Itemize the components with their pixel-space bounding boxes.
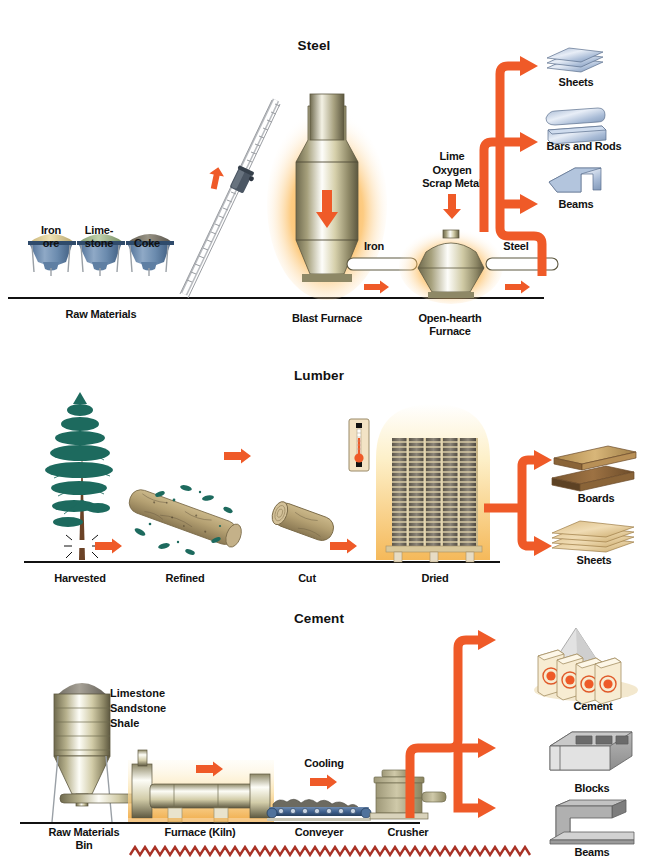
flow-label-iron: Iron xyxy=(352,240,396,253)
arrow-cooling xyxy=(310,774,338,790)
caption-blast-furnace: Blast Furnace xyxy=(252,312,402,325)
iron-ore-line1: Iron xyxy=(28,224,74,237)
cut-off-header-text xyxy=(60,0,400,7)
arrow-kiln-direction xyxy=(196,761,224,777)
zigzag-divider xyxy=(130,845,530,859)
product-label-sheets-steel: Sheets xyxy=(536,76,616,89)
arrow-harvested-to-refined xyxy=(95,538,123,554)
furnace-kiln xyxy=(128,748,274,824)
raw-material-label-coke: Coke xyxy=(124,237,170,250)
arrow-additives-down xyxy=(442,194,462,220)
product-label-sheets-lumber: Sheets xyxy=(554,554,634,567)
skip-car-steel xyxy=(229,166,255,198)
open-hearth-line1: Open-hearth xyxy=(388,312,512,325)
arrow-refined-to-cut xyxy=(224,448,252,464)
section-title-steel: Steel xyxy=(234,38,394,53)
thermometer-icon xyxy=(348,418,370,472)
product-icon-sheets-steel xyxy=(543,44,607,74)
product-label-blocks: Blocks xyxy=(550,782,634,795)
raw-material-label-limestone: Lime- stone xyxy=(74,224,124,249)
conveyer xyxy=(267,793,371,823)
caption-dried: Dried xyxy=(390,572,480,585)
bin-content-limestone: Limestone xyxy=(110,686,220,701)
caption-conveyer: Conveyer xyxy=(272,826,366,839)
product-label-beams-steel: Beams xyxy=(540,198,612,211)
product-label-bars-and-rods: Bars and Rods xyxy=(524,140,644,153)
caption-refined: Refined xyxy=(135,572,235,585)
product-label-boards: Boards xyxy=(556,492,636,505)
product-icon-blocks xyxy=(546,728,636,778)
product-icon-cement-bags xyxy=(524,624,640,706)
bin-content-sandstone: Sandstone xyxy=(110,701,220,716)
arrow-steel-out xyxy=(505,280,531,294)
caption-cut: Cut xyxy=(272,572,342,585)
open-hearth-line2: Furnace xyxy=(388,325,512,338)
product-icon-boards-lumber xyxy=(550,444,640,492)
product-icon-sheets-lumber xyxy=(548,518,640,554)
limestone-line1: Lime- xyxy=(74,224,124,237)
raw-material-label-iron-ore: Iron ore xyxy=(28,224,74,249)
section-title-cement: Cement xyxy=(234,611,404,626)
product-label-beams-cement: Beams xyxy=(550,846,634,859)
arrow-iron-to-open-hearth xyxy=(364,280,390,294)
caption-harvested: Harvested xyxy=(30,572,130,585)
product-icon-beams-cement xyxy=(546,798,636,844)
product-label-cement: Cement xyxy=(548,700,638,713)
limestone-line2: stone xyxy=(74,237,124,250)
drying-kiln xyxy=(370,398,500,564)
bin-contents-labels: Limestone Sandstone Shale xyxy=(110,686,220,731)
log-refined-illustration xyxy=(120,480,250,560)
bin-content-shale: Shale xyxy=(110,716,220,731)
process-label-cooling: Cooling xyxy=(282,757,366,770)
iron-ore-line2: ore xyxy=(28,237,74,250)
product-icon-beams-steel xyxy=(545,162,607,198)
caption-furnace-kiln: Furnace (Kiln) xyxy=(130,826,270,839)
caption-open-hearth-furnace: Open-hearth Furnace xyxy=(388,312,512,337)
arrow-up-skip-car xyxy=(207,166,225,190)
arrow-cut-to-dried xyxy=(330,538,358,554)
section-title-lumber: Lumber xyxy=(234,368,404,383)
caption-raw-materials-steel: Raw Materials xyxy=(26,308,176,321)
caption-crusher: Crusher xyxy=(366,826,450,839)
lumber-product-routing-arrows xyxy=(484,446,556,556)
cement-product-routing-arrows xyxy=(398,628,518,820)
